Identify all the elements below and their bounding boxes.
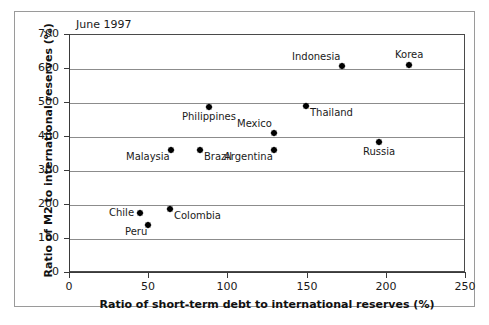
y-tick-200: [64, 204, 69, 205]
data-point-label-philippines: Philippines: [182, 111, 236, 122]
data-point-label-malaysia: Malaysia: [126, 151, 170, 162]
data-point-label-russia: Russia: [363, 146, 395, 157]
data-point-philippines: [206, 104, 213, 111]
data-point-label-mexico: Mexico: [237, 118, 272, 129]
data-point-korea: [405, 61, 412, 68]
x-tick-label-200: 200: [361, 281, 411, 292]
data-point-label-indonesia: Indonesia: [292, 51, 340, 62]
data-point-colombia: [166, 206, 173, 213]
x-tick-250: [465, 273, 466, 278]
data-point-label-chile: Chile: [109, 207, 134, 218]
data-point-label-colombia: Colombia: [174, 210, 221, 221]
x-tick-label-250: 250: [440, 281, 489, 292]
x-tick-50: [148, 273, 149, 278]
data-point-label-korea: Korea: [395, 49, 423, 60]
x-tick-0: [69, 273, 70, 278]
gridline-y-200: [70, 205, 464, 206]
x-tick-200: [386, 273, 387, 278]
gridline-y-400: [70, 137, 464, 138]
x-tick-150: [307, 273, 308, 278]
data-point-label-thailand: Thailand: [310, 107, 353, 118]
x-tick-label-50: 50: [123, 281, 173, 292]
y-tick-500: [64, 102, 69, 103]
data-point-label-peru: Peru: [125, 226, 147, 237]
chart-title: June 1997: [76, 18, 131, 31]
data-point-label-argentina: Argentina: [224, 151, 273, 162]
x-tick-label-100: 100: [202, 281, 252, 292]
gridline-y-500: [70, 103, 464, 104]
x-tick-100: [227, 273, 228, 278]
x-axis-spine: [69, 272, 466, 273]
x-tick-label-150: 150: [282, 281, 332, 292]
x-tick-label-0: 0: [44, 281, 94, 292]
y-tick-600: [64, 68, 69, 69]
y-tick-100: [64, 238, 69, 239]
y-tick-300: [64, 170, 69, 171]
data-point-brazil: [196, 146, 203, 153]
y-tick-400: [64, 136, 69, 137]
data-point-chile: [136, 209, 143, 216]
gridline-y-100: [70, 239, 464, 240]
data-point-russia: [375, 139, 382, 146]
gridline-y-300: [70, 171, 464, 172]
data-point-thailand: [302, 103, 309, 110]
y-tick-700: [64, 34, 69, 35]
data-point-mexico: [271, 129, 278, 136]
gridline-y-600: [70, 69, 464, 70]
y-axis-label: Ratio of M2 to international reserves (%…: [42, 28, 55, 278]
figure: June 1997 IndonesiaKoreaPhilippinesThail…: [0, 0, 489, 325]
y-axis-spine: [69, 34, 70, 273]
plot-area: IndonesiaKoreaPhilippinesThailandMexicoR…: [69, 34, 465, 272]
x-axis-label: Ratio of short-term debt to internationa…: [69, 298, 465, 311]
